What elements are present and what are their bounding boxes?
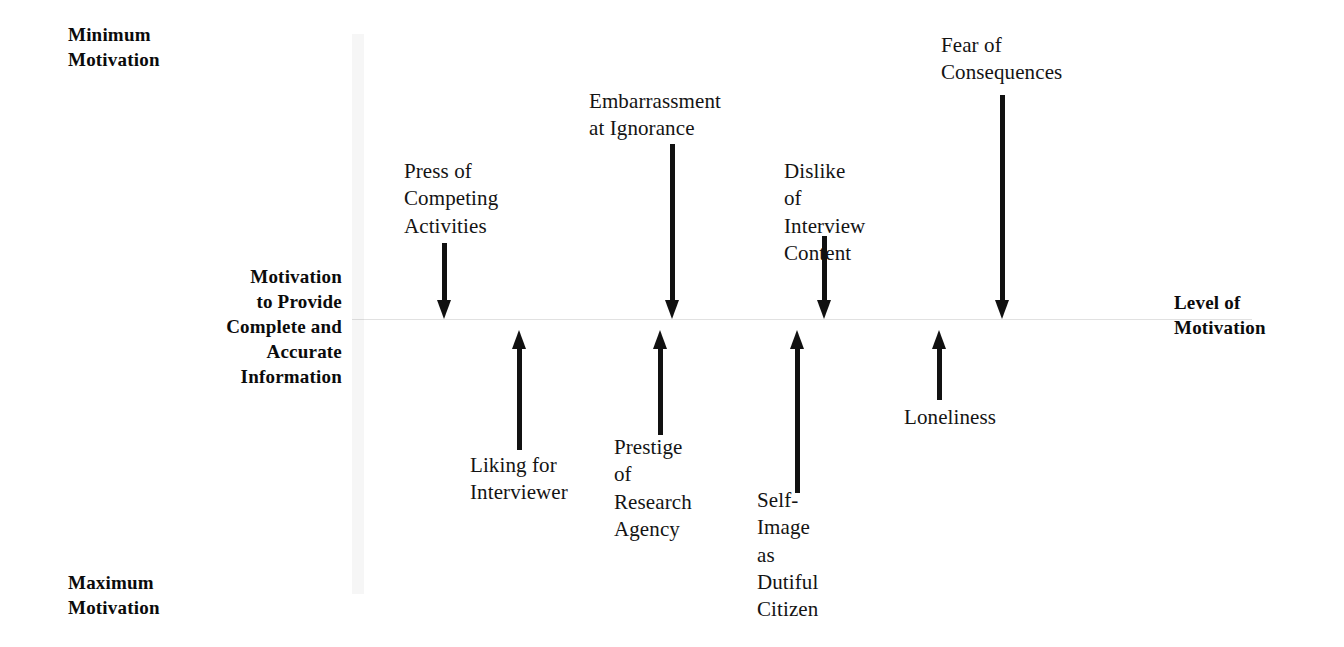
arrow-head <box>665 300 679 319</box>
factor-label-prestige-of-research-agency: Prestige of Research Agency <box>614 434 692 543</box>
arrow-head <box>995 300 1009 319</box>
arrow-head <box>817 300 831 319</box>
factor-label-loneliness: Loneliness <box>904 404 996 431</box>
arrow-shaft <box>795 348 800 493</box>
left-axis-title: Motivation to Provide Complete and Accur… <box>148 264 342 389</box>
arrow-shaft <box>822 236 827 300</box>
arrow-shaft <box>442 243 447 300</box>
motivation-diagram-canvas: Minimum Motivation Maximum Motivation Mo… <box>0 0 1344 647</box>
factor-label-press-of-competing-activities: Press of Competing Activities <box>404 158 498 240</box>
factor-label-liking-for-interviewer: Liking for Interviewer <box>470 452 568 507</box>
minimum-motivation-label: Minimum Motivation <box>68 22 160 72</box>
arrow-head <box>790 330 804 349</box>
arrow-head <box>932 330 946 349</box>
arrow-head <box>512 330 526 349</box>
maximum-motivation-label: Maximum Motivation <box>68 570 160 620</box>
arrow-head <box>437 300 451 319</box>
motivation-baseline-axis <box>352 319 1252 320</box>
arrow-head <box>653 330 667 349</box>
arrow-shaft <box>658 348 663 435</box>
arrow-shaft <box>937 348 942 400</box>
right-axis-title: Level of Motivation <box>1174 290 1266 340</box>
arrow-shaft <box>1000 95 1005 300</box>
arrow-shaft <box>517 348 522 450</box>
scan-artifact-band <box>352 34 364 594</box>
factor-label-self-image-as-dutiful-citizen: Self-Image as Dutiful Citizen <box>757 487 818 623</box>
factor-label-embarrassment-at-ignorance: Embarrassment at Ignorance <box>589 88 721 143</box>
factor-label-fear-of-consequences: Fear of Consequences <box>941 32 1062 87</box>
arrow-shaft <box>670 144 675 300</box>
